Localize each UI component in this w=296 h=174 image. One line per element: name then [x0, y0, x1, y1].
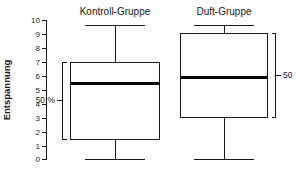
y-axis: 10 9 8 7 6 5 4: [31, 16, 46, 164]
y-axis-tick-label: 3: [36, 114, 41, 123]
y-axis-tick-7: 7: [36, 58, 47, 67]
boxplot-group-control: Kontroll-Gruppe 50 %: [36, 6, 160, 160]
group-title-control: Kontroll-Gruppe: [80, 6, 151, 17]
y-axis-tick-label: 5: [36, 86, 41, 95]
chart-canvas: Entspannung 10 9 8 7 6: [0, 0, 295, 174]
y-axis-tick-label: 6: [36, 72, 41, 81]
group-title-scent: Duft-Gruppe: [196, 6, 251, 17]
y-axis-tick-label: 0: [36, 155, 41, 164]
y-axis-tick-8: 8: [36, 44, 47, 53]
y-axis-tick-label: 10: [31, 16, 40, 25]
y-axis-tick-10: 10: [31, 16, 46, 25]
y-axis-tick-label: 8: [36, 44, 41, 53]
iqr-bracket-scent: [272, 34, 276, 118]
y-axis-tick-9: 9: [36, 30, 47, 39]
y-axis-tick-6: 6: [36, 72, 47, 81]
y-axis-tick-1: 1: [36, 142, 47, 151]
iqr-annotation-scent: 50 %: [283, 70, 295, 80]
y-axis-tick-3: 3: [36, 114, 47, 123]
y-axis-tick-label: 1: [36, 142, 41, 151]
y-axis-tick-2: 2: [36, 128, 47, 137]
y-axis-tick-label: 2: [36, 128, 41, 137]
box-scent: [181, 34, 268, 118]
iqr-bracket-control: [63, 63, 67, 140]
boxplot-group-scent: Duft-Gruppe 50 %: [181, 6, 296, 160]
y-axis-tick-5: 5: [36, 86, 47, 95]
y-axis-tick-label: 7: [36, 58, 41, 67]
boxplot-chart: Entspannung 10 9 8 7 6: [0, 0, 295, 174]
y-axis-tick-label: 9: [36, 30, 41, 39]
y-axis-title: Entspannung: [1, 59, 12, 120]
y-axis-tick-0: 0: [36, 155, 47, 164]
box-control: [71, 63, 160, 140]
iqr-annotation-control: 50 %: [36, 95, 56, 105]
